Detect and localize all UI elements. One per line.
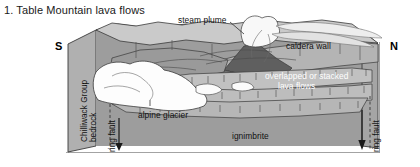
alpine-glacier-label: alpine glacier — [138, 110, 188, 120]
ring-fault-right-label: ring fault — [372, 120, 381, 152]
steam-plume-label: steam plume — [178, 15, 227, 25]
ring-fault-left-label: ring fault — [108, 120, 117, 152]
bedrock-label-line2: bedrock — [89, 113, 99, 142]
ignimbrite-label: ignimbrite — [232, 131, 269, 141]
compass-north-label: N — [390, 40, 398, 52]
figure-block-diagram: 1. Table Mountain lava flows S N steam p… — [0, 0, 420, 167]
figure-title: 1. Table Mountain lava flows — [4, 4, 145, 16]
overlapped-lava-flows-label-line2: lava flows — [278, 81, 315, 91]
caldera-wall-label: caldera wall — [286, 41, 331, 51]
compass-south-label: S — [55, 40, 62, 52]
block-diagram-illustration — [0, 0, 420, 167]
overlapped-lava-flows-label-line1: overlapped or stacked — [265, 71, 348, 81]
